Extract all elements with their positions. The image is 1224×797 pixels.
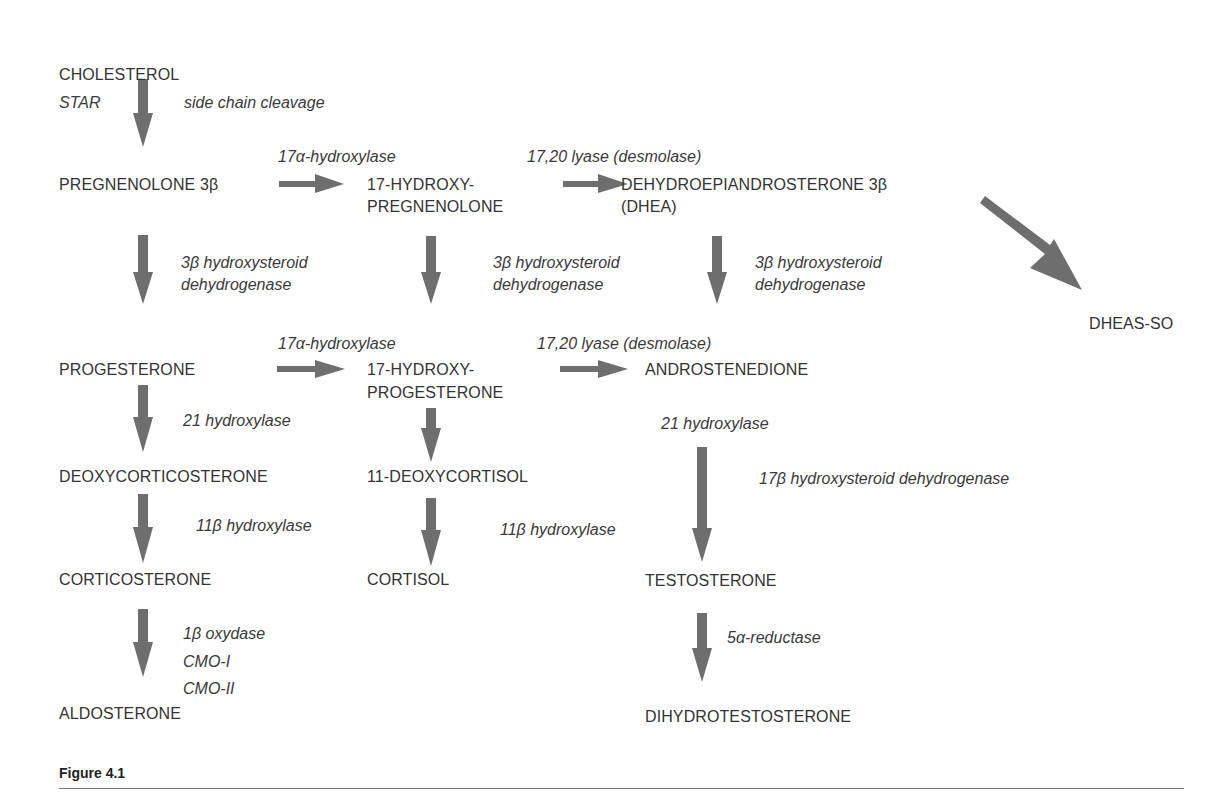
enzyme-cmo-i: CMO-I xyxy=(183,651,230,672)
steroidogenesis-diagram: CHOLESTEROL PREGNENOLONE 3β 17-HYDROXY- … xyxy=(0,0,1224,797)
enzyme-cmo-ii: CMO-II xyxy=(183,678,235,699)
arrow-down-icon xyxy=(133,609,153,677)
enzyme-11b-hydroxylase-mid: 11β hydroxylase xyxy=(500,519,616,540)
enzyme-21-hydroxylase-left: 21 hydroxylase xyxy=(183,410,291,431)
enzyme-17a-hydroxylase-top: 17α-hydroxylase xyxy=(278,146,396,167)
node-dhea-line1: DEHYDROEPIANDROSTERONE 3β xyxy=(621,174,887,195)
node-dhea-line2: (DHEA) xyxy=(621,196,677,217)
arrow-diagonal-icon xyxy=(980,196,1082,290)
enzyme-17-20-lyase-bottom: 17,20 lyase (desmolase) xyxy=(537,333,711,354)
node-17-hydroxypregnenolone-line2: PREGNENOLONE xyxy=(367,196,503,217)
enzyme-11b-hydroxylase-left: 11β hydroxylase xyxy=(196,515,312,536)
node-cholesterol: CHOLESTEROL xyxy=(59,64,179,85)
node-androstenedione: ANDROSTENEDIONE xyxy=(645,359,808,380)
arrow-down-icon xyxy=(707,236,727,304)
arrow-right-icon xyxy=(560,360,628,378)
enzyme-17-20-lyase-top: 17,20 lyase (desmolase) xyxy=(527,146,701,167)
node-dihydrotestosterone: DIHYDROTESTOSTERONE xyxy=(645,706,851,727)
caption-divider xyxy=(59,788,1184,789)
arrow-right-icon xyxy=(563,174,628,193)
figure-caption: Figure 4.1 xyxy=(59,765,125,781)
arrow-down-icon xyxy=(133,385,153,452)
node-cortisol: CORTISOL xyxy=(367,569,449,590)
node-dheas: DHEAS-SO xyxy=(1089,313,1173,334)
arrow-down-icon xyxy=(421,236,441,304)
enzyme-3b-hsd-left-line1: 3β hydroxysteroid xyxy=(181,252,308,273)
node-testosterone: TESTOSTERONE xyxy=(645,570,777,591)
arrow-down-icon xyxy=(421,498,441,566)
enzyme-star: STAR xyxy=(59,92,100,113)
enzyme-3b-hsd-right-line1: 3β hydroxysteroid xyxy=(755,252,882,273)
node-17-hydroxyprogesterone-line2: PROGESTERONE xyxy=(367,382,503,403)
node-aldosterone: ALDOSTERONE xyxy=(59,703,181,724)
enzyme-3b-hsd-mid-line1: 3β hydroxysteroid xyxy=(493,252,620,273)
arrow-down-icon xyxy=(692,447,712,562)
arrow-down-icon xyxy=(421,408,441,462)
arrow-down-icon xyxy=(692,613,712,682)
node-11-deoxycortisol: 11-DEOXYCORTISOL xyxy=(367,466,528,487)
enzyme-3b-hsd-right-line2: dehydrogenase xyxy=(755,274,865,295)
arrow-down-icon xyxy=(133,79,153,147)
arrow-down-icon xyxy=(133,494,153,563)
node-pregnenolone: PREGNENOLONE 3β xyxy=(59,174,218,195)
enzyme-17a-hydroxylase-bottom: 17α-hydroxylase xyxy=(278,333,396,354)
arrow-right-icon xyxy=(279,174,344,193)
node-17-hydroxypregnenolone-line1: 17-HYDROXY- xyxy=(367,174,474,195)
enzyme-21-hydroxylase-right: 21 hydroxylase xyxy=(661,413,769,434)
enzyme-5a-reductase: 5α-reductase xyxy=(727,627,821,648)
node-progesterone: PROGESTERONE xyxy=(59,359,195,380)
enzyme-1b-oxydase: 1β oxydase xyxy=(183,623,265,644)
node-corticosterone: CORTICOSTERONE xyxy=(59,569,211,590)
enzyme-3b-hsd-left-line2: dehydrogenase xyxy=(181,274,291,295)
arrow-right-icon xyxy=(277,360,345,378)
enzyme-side-chain-cleavage: side chain cleavage xyxy=(184,92,325,113)
node-17-hydroxyprogesterone-line1: 17-HYDROXY- xyxy=(367,359,474,380)
enzyme-3b-hsd-mid-line2: dehydrogenase xyxy=(493,274,603,295)
arrow-down-icon xyxy=(133,235,153,304)
node-deoxycorticosterone: DEOXYCORTICOSTERONE xyxy=(59,466,268,487)
enzyme-17b-hsd: 17β hydroxysteroid dehydrogenase xyxy=(759,468,1009,489)
